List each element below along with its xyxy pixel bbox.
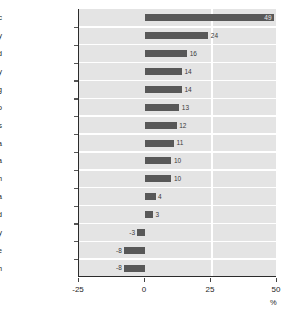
row-separator [79, 115, 276, 117]
row-separator [79, 26, 276, 28]
row-separator [79, 80, 276, 82]
bar [145, 68, 182, 75]
category-label: New Zealand [0, 210, 2, 219]
category-label: Italy [0, 67, 2, 76]
category-label: Luxembourg [0, 85, 2, 94]
x-tick [210, 278, 211, 282]
y-tick [74, 206, 78, 207]
row-separator [79, 98, 276, 100]
bar [145, 140, 174, 147]
plot-area: 4924161414131211101043-3-8-8 [78, 9, 276, 277]
bar [145, 193, 156, 200]
bar-value-label: 4 [158, 193, 162, 200]
y-tick [74, 98, 78, 99]
bar-value-label: 10 [174, 157, 181, 164]
bar [145, 50, 187, 57]
row-separator [79, 223, 276, 225]
bar-value-label: 3 [155, 211, 159, 218]
row-separator [79, 44, 276, 46]
category-label: United Kingdom [0, 174, 2, 183]
y-tick [74, 241, 78, 242]
category-label: Mexico [0, 103, 2, 112]
bar [137, 229, 145, 236]
bar-value-label: -8 [112, 264, 122, 271]
y-tick [74, 259, 78, 260]
bar [145, 157, 171, 164]
y-tick [74, 116, 78, 117]
category-label: Poland [0, 49, 2, 58]
row-separator [79, 258, 276, 260]
category-label: Korea [0, 192, 2, 201]
bar-chart: 4924161414131211101043-3-8-8 Czech Repub… [0, 0, 283, 316]
bar [145, 104, 179, 111]
category-label: United States [0, 121, 2, 130]
y-tick [74, 152, 78, 153]
bar-value-label: -8 [112, 247, 122, 254]
bar-value-label: 49 [264, 14, 271, 21]
x-tick-label: 50 [256, 285, 283, 294]
x-tick [144, 278, 145, 282]
axis-unit-label: % [270, 298, 277, 307]
x-tick-label: -25 [58, 285, 98, 294]
bar [145, 32, 208, 39]
bar-value-label: 12 [179, 122, 186, 129]
bar-value-label: 14 [184, 86, 191, 93]
category-label: Austria [0, 156, 2, 165]
row-separator [79, 169, 276, 171]
row-separator [79, 241, 276, 243]
bar-value-label: 16 [190, 50, 197, 57]
category-label: Czech Republic [0, 13, 2, 22]
y-tick [74, 45, 78, 46]
y-tick [74, 223, 78, 224]
y-tick [74, 134, 78, 135]
row-separator [79, 205, 276, 207]
bar [145, 86, 182, 93]
bar-value-label: 24 [211, 32, 218, 39]
y-tick [74, 63, 78, 64]
y-tick [74, 80, 78, 81]
y-tick [74, 188, 78, 189]
category-label: Turkey [0, 31, 2, 40]
row-separator [79, 62, 276, 64]
gridline-25 [211, 9, 213, 276]
bar-value-label: 14 [184, 68, 191, 75]
bar-value-label: 13 [182, 104, 189, 111]
x-tick [276, 278, 277, 282]
category-label: Belgium [0, 264, 2, 273]
bar-value-label: -3 [125, 229, 135, 236]
x-tick [78, 278, 79, 282]
bar [124, 247, 145, 254]
bar-value-label: 10 [174, 175, 181, 182]
y-tick [74, 170, 78, 171]
bar-value-label: 11 [177, 139, 184, 146]
x-tick-label: 25 [190, 285, 230, 294]
row-separator [79, 133, 276, 135]
bar [145, 14, 274, 21]
category-label: Greece [0, 246, 2, 255]
category-label: Hungary [0, 228, 2, 237]
row-separator [79, 187, 276, 189]
category-label: Canada [0, 139, 2, 148]
bar [145, 211, 153, 218]
x-tick-label: 0 [124, 285, 164, 294]
bar [124, 265, 145, 272]
bar [145, 175, 171, 182]
chart-title [0, 0, 283, 7]
plot-inner: 4924161414131211101043-3-8-8 [79, 9, 276, 276]
row-separator [79, 151, 276, 153]
y-tick [74, 27, 78, 28]
bar [145, 122, 177, 129]
